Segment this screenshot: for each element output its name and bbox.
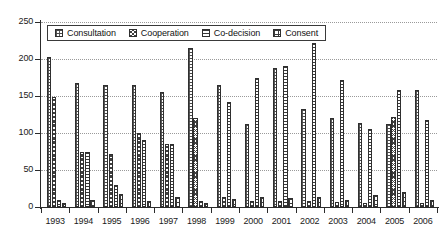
bar-codecision-2003 bbox=[340, 80, 344, 207]
y-axis-label-slot: 250 bbox=[0, 17, 33, 26]
y-axis-label-slot: 200 bbox=[0, 54, 33, 63]
x-axis-tick bbox=[352, 208, 353, 213]
bar-cooperation-2003 bbox=[335, 202, 339, 207]
y-axis-label-slot: 0 bbox=[0, 202, 33, 211]
bar-consent-1994 bbox=[90, 200, 94, 207]
plot-area bbox=[41, 22, 437, 207]
x-axis-tick-label: 2001 bbox=[267, 216, 295, 226]
x-axis-tick bbox=[126, 208, 127, 213]
x-axis-tick-label: 1993 bbox=[41, 216, 69, 226]
bar-codecision-1998 bbox=[199, 201, 203, 207]
bar-cooperation-2006 bbox=[420, 203, 424, 207]
x-axis-tick bbox=[211, 208, 212, 213]
bar-consent-2005 bbox=[402, 192, 406, 207]
bar-consultation-2000 bbox=[245, 124, 249, 207]
y-axis-tick-label: 200 bbox=[1, 54, 33, 63]
y-axis-tick-label: 150 bbox=[1, 91, 33, 100]
bar-consultation-2002 bbox=[301, 109, 305, 207]
bar-cooperation-1996 bbox=[137, 133, 141, 207]
bar-consultation-1993 bbox=[47, 57, 51, 207]
x-axis-tick-label: 1999 bbox=[211, 216, 239, 226]
y-axis-label-slot: 50 bbox=[0, 165, 33, 174]
y-axis-tick-label: 50 bbox=[1, 165, 33, 174]
bar-cooperation-1994 bbox=[80, 152, 84, 208]
bar-cooperation-1999 bbox=[222, 197, 226, 207]
bar-codecision-1996 bbox=[142, 140, 146, 207]
y-axis-label-slot: 150 bbox=[0, 91, 33, 100]
x-axis-tick-label: 1995 bbox=[98, 216, 126, 226]
x-axis-tick-label: 2004 bbox=[352, 216, 380, 226]
bar-consultation-2004 bbox=[358, 123, 362, 207]
bar-consent-1997 bbox=[175, 197, 179, 207]
bar-cooperation-2001 bbox=[278, 201, 282, 207]
bar-cooperation-1998 bbox=[193, 118, 197, 207]
bar-cooperation-2000 bbox=[250, 201, 254, 207]
bar-codecision-1994 bbox=[85, 152, 89, 208]
x-axis-tick bbox=[267, 208, 268, 213]
bar-codecision-2004 bbox=[368, 129, 372, 207]
bar-consultation-1999 bbox=[217, 85, 221, 207]
legend-item-label: Consultation bbox=[67, 28, 116, 38]
legend-item-cooperation: Cooperation bbox=[129, 28, 189, 38]
bar-codecision-2000 bbox=[255, 78, 259, 208]
x-axis-tick bbox=[182, 208, 183, 213]
codecision-swatch-icon bbox=[202, 29, 210, 37]
legend-item-label: Co-decision bbox=[214, 28, 260, 38]
legend-item-codecision: Co-decision bbox=[202, 28, 260, 38]
bar-cooperation-1995 bbox=[109, 154, 113, 207]
x-axis-tick bbox=[437, 208, 438, 213]
bar-cooperation-2004 bbox=[363, 203, 367, 207]
legend-item-label: Cooperation bbox=[141, 28, 189, 38]
consent-swatch-icon bbox=[273, 29, 281, 37]
bar-consent-1998 bbox=[204, 203, 208, 207]
y-axis-tick-label: 250 bbox=[1, 17, 33, 26]
x-axis-tick-label: 1997 bbox=[154, 216, 182, 226]
bar-consultation-2003 bbox=[330, 118, 334, 207]
bar-consent-2000 bbox=[260, 197, 264, 207]
legend-item-label: Consent bbox=[285, 28, 318, 38]
bar-consultation-2001 bbox=[273, 68, 277, 207]
x-axis-tick-label: 2002 bbox=[296, 216, 324, 226]
cooperation-swatch-icon bbox=[129, 29, 137, 37]
bar-consent-2006 bbox=[430, 200, 434, 207]
x-axis-tick bbox=[239, 208, 240, 213]
x-axis-tick-label: 2005 bbox=[380, 216, 408, 226]
x-axis-tick bbox=[324, 208, 325, 213]
bar-chart: 050100150200250 199319941995199619971998… bbox=[0, 0, 443, 243]
x-axis-tick bbox=[69, 208, 70, 213]
x-axis-tick-label: 2006 bbox=[409, 216, 437, 226]
bar-consultation-2006 bbox=[415, 90, 419, 207]
x-axis-tick-label: 1998 bbox=[182, 216, 210, 226]
bar-consent-1996 bbox=[147, 201, 151, 207]
x-axis-tick bbox=[98, 208, 99, 213]
x-axis-tick-label: 2000 bbox=[239, 216, 267, 226]
chart-legend: ConsultationCooperationCo-decisionConsen… bbox=[47, 25, 326, 41]
legend-item-consent: Consent bbox=[273, 28, 318, 38]
bar-cooperation-1997 bbox=[165, 144, 169, 207]
y-axis-label-slot: 100 bbox=[0, 128, 33, 137]
bar-cooperation-2002 bbox=[307, 201, 311, 207]
bar-codecision-1993 bbox=[57, 200, 61, 207]
x-axis-tick bbox=[380, 208, 381, 213]
bar-consultation-2005 bbox=[386, 124, 390, 207]
bar-consent-1993 bbox=[62, 203, 66, 207]
bar-codecision-1997 bbox=[170, 144, 174, 207]
bar-consultation-1994 bbox=[75, 83, 79, 207]
bar-codecision-2002 bbox=[312, 43, 316, 207]
bar-consent-2002 bbox=[317, 197, 321, 207]
bar-cooperation-1993 bbox=[52, 97, 56, 207]
bar-codecision-2006 bbox=[425, 120, 429, 207]
x-axis-tick bbox=[296, 208, 297, 213]
legend-item-consultation: Consultation bbox=[55, 28, 116, 38]
y-axis-tick-label: 100 bbox=[1, 128, 33, 137]
x-axis-tick-label: 2003 bbox=[324, 216, 352, 226]
bar-consent-2004 bbox=[373, 195, 377, 207]
x-axis-tick bbox=[409, 208, 410, 213]
bar-consent-2001 bbox=[288, 198, 292, 207]
bar-consent-1995 bbox=[119, 194, 123, 207]
x-axis-tick bbox=[154, 208, 155, 213]
bar-consent-1999 bbox=[232, 199, 236, 207]
bar-codecision-2001 bbox=[283, 66, 287, 207]
bar-consultation-1998 bbox=[188, 48, 192, 207]
bar-codecision-1999 bbox=[227, 102, 231, 207]
